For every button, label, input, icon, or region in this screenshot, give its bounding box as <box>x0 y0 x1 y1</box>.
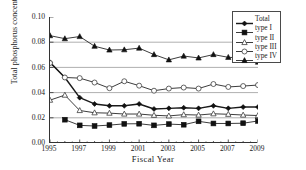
y-tick-label: 0.04 <box>21 89 45 97</box>
data-point-marker <box>152 88 157 93</box>
legend-item-type-i[interactable]: type I <box>235 23 277 32</box>
data-point-marker <box>77 123 82 128</box>
data-point-marker <box>107 123 112 128</box>
data-point-marker <box>137 121 142 126</box>
data-point-marker <box>92 43 97 48</box>
plot-svg <box>50 17 258 143</box>
legend-marker-filled-diamond-icon <box>235 14 254 23</box>
legend-item-total[interactable]: Total <box>235 14 277 23</box>
legend-marker-filled-square-icon <box>235 23 254 32</box>
data-point-marker <box>256 83 259 88</box>
data-point-marker <box>211 111 216 116</box>
legend-item-type-iv[interactable]: type IV <box>235 51 277 60</box>
data-point-marker <box>77 34 82 39</box>
data-point-marker <box>122 121 127 126</box>
data-point-marker <box>196 106 201 111</box>
series-type-ii <box>50 92 258 118</box>
plot-area <box>49 17 257 143</box>
data-point-marker <box>226 84 231 89</box>
data-point-marker <box>226 106 231 111</box>
data-point-marker <box>107 86 112 91</box>
legend-label: type I <box>254 24 272 31</box>
x-tick-label: 1995 <box>36 145 62 152</box>
data-point-marker <box>166 122 171 127</box>
series-type-iii <box>50 60 258 93</box>
data-point-marker <box>241 84 246 89</box>
data-point-marker <box>92 101 97 106</box>
legend-label: type III <box>254 43 277 50</box>
y-tick-label: 0.10 <box>21 13 45 21</box>
data-point-marker <box>196 119 201 124</box>
data-point-marker <box>226 121 231 126</box>
data-point-marker <box>181 112 186 117</box>
data-point-marker <box>137 83 142 88</box>
series-type-i <box>62 117 258 128</box>
series-type-iv <box>50 33 258 64</box>
data-point-marker <box>211 82 216 87</box>
data-point-marker <box>181 105 186 110</box>
data-point-marker <box>107 103 112 108</box>
legend-marker-filled-triangle-icon <box>235 51 254 60</box>
x-tick-label: 1999 <box>95 145 121 152</box>
data-point-marker <box>92 80 97 85</box>
data-point-marker <box>136 45 141 50</box>
data-point-marker <box>196 86 201 91</box>
data-point-marker <box>166 106 171 111</box>
x-tick-label: 2007 <box>214 145 240 152</box>
x-axis-title: Fiscal Year <box>48 154 258 164</box>
x-tick-label: 2005 <box>185 145 211 152</box>
data-point-marker <box>50 60 53 65</box>
data-point-marker <box>122 79 127 84</box>
data-point-marker <box>62 75 67 80</box>
data-point-marker <box>77 76 82 81</box>
x-tick-label: 2001 <box>125 145 151 152</box>
data-point-marker <box>256 105 259 110</box>
data-point-marker <box>181 122 186 127</box>
data-point-marker <box>122 103 127 108</box>
data-point-marker <box>211 52 216 57</box>
data-point-marker <box>211 103 216 108</box>
x-tick-label: 2003 <box>155 145 181 152</box>
data-point-marker <box>62 117 67 122</box>
y-axis-title: Total phosphorus concentration (mg/L) <box>9 0 21 86</box>
data-point-marker <box>152 106 157 111</box>
y-tick-label: 0.08 <box>21 38 45 46</box>
data-point-marker <box>241 121 246 126</box>
data-point-marker <box>137 101 142 106</box>
legend-label: type II <box>254 34 274 41</box>
y-tick-label: 0.06 <box>21 64 45 72</box>
x-tick-label: 2009 <box>244 145 270 152</box>
legend-marker-open-triangle-icon <box>235 33 254 42</box>
data-point-marker <box>211 121 216 126</box>
legend-label: Total <box>254 15 270 22</box>
data-point-marker <box>50 33 53 38</box>
data-point-marker <box>181 53 186 58</box>
legend-item-type-iii[interactable]: type III <box>235 42 277 51</box>
x-tick-label: 1997 <box>66 145 92 152</box>
data-point-marker <box>166 86 171 91</box>
legend-marker-open-circle-icon <box>235 42 254 51</box>
data-point-marker <box>92 124 97 129</box>
legend-label: type IV <box>254 52 277 59</box>
y-tick-label: 0.02 <box>21 114 45 122</box>
data-point-marker <box>256 119 258 124</box>
legend-item-type-ii[interactable]: type II <box>235 33 277 42</box>
chart-figure: Total phosphorus concentration (mg/L) Fi… <box>0 0 306 170</box>
chart-legend: Totaltype Itype IItype IIItype IV <box>232 11 281 63</box>
data-point-marker <box>152 123 157 128</box>
data-point-marker <box>181 85 186 90</box>
data-point-marker <box>241 105 246 110</box>
